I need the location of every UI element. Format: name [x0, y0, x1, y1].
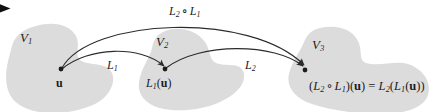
formula-right-l1-base: L [394, 79, 401, 93]
formula-l1-base: L [335, 79, 342, 93]
point-label-u-text: u [56, 76, 63, 90]
bullet-arrow-marker-tail [0, 6, 3, 10]
space-label-v3-base: V [312, 37, 320, 52]
space-label-v1-base: V [20, 30, 28, 45]
linear-transformation-composition-figure: V1 V2 V3 u L1(u) L1 L2 L2∘L1 (L2∘L1)(u) … [0, 0, 442, 112]
point-dot-u [59, 67, 64, 72]
map-label-l1-sub: 1 [114, 64, 118, 73]
map-label-l1-base: L [107, 58, 114, 72]
composition-formula: (L2∘L1)(u) = L2(L1(u)) [309, 80, 425, 95]
vector-space-blob-v2 [139, 29, 244, 111]
point-dot-l1u [163, 67, 168, 72]
map-label-l1: L1 [107, 59, 118, 73]
comp-label-circ-operator: ∘ [180, 4, 190, 18]
space-label-v2-base: V [156, 34, 164, 49]
map-label-l2-compose-l1: L2∘L1 [169, 5, 200, 19]
formula-close-arg: )( [346, 79, 354, 93]
map-label-l2-sub: 2 [252, 64, 256, 73]
point-label-l1u-fn: L [146, 76, 153, 90]
map-label-l2: L2 [245, 59, 256, 73]
comp-label-l2-base: L [169, 4, 176, 18]
point-label-l1u: L1(u) [146, 77, 171, 91]
formula-equals: ) = [361, 79, 378, 93]
point-label-l1u-close: ) [167, 76, 171, 90]
space-label-v2-sub: 2 [164, 40, 168, 50]
space-label-v1-sub: 1 [28, 36, 32, 46]
point-label-u: u [56, 77, 63, 89]
comp-label-l1-sub: 1 [196, 10, 200, 19]
diagram-canvas [0, 0, 442, 112]
space-label-v3-sub: 3 [320, 43, 324, 53]
space-label-v3: V3 [312, 38, 324, 53]
space-label-v1: V1 [20, 31, 32, 46]
point-dot-l2l1u [303, 68, 308, 73]
formula-right-close-parens: )) [416, 79, 424, 93]
space-label-v2: V2 [156, 35, 168, 50]
vector-space-blob-v3 [288, 27, 429, 112]
formula-circ-operator: ∘ [324, 79, 334, 93]
map-label-l2-base: L [245, 58, 252, 72]
